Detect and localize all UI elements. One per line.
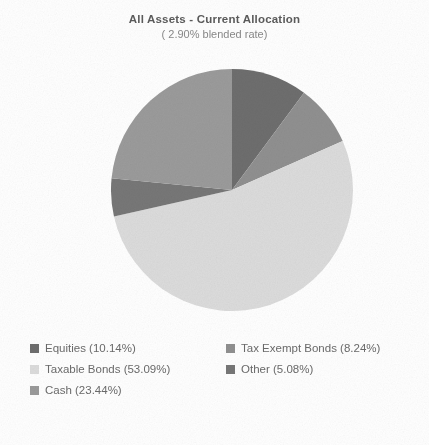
legend-item-label: Equities (10.14%)	[45, 342, 136, 355]
legend-row: Taxable Bonds (53.09%) Other (5.08%)	[30, 359, 422, 380]
chart-subtitle: ( 2.90% blended rate)	[0, 27, 429, 41]
legend-spacer	[226, 380, 422, 401]
legend-item-label: Tax Exempt Bonds (8.24%)	[241, 342, 380, 355]
pie-svg	[111, 66, 353, 314]
legend-item-label: Taxable Bonds (53.09%)	[45, 363, 170, 376]
legend-item-tax-exempt-bonds[interactable]: Tax Exempt Bonds (8.24%)	[226, 338, 422, 359]
legend-row: Cash (23.44%)	[30, 380, 422, 401]
legend-swatch-icon	[226, 344, 235, 353]
chart-title-block: All Assets - Current Allocation ( 2.90% …	[0, 12, 429, 41]
chart-legend: Equities (10.14%) Tax Exempt Bonds (8.24…	[30, 338, 422, 401]
legend-item-equities[interactable]: Equities (10.14%)	[30, 338, 226, 359]
legend-swatch-icon	[30, 344, 39, 353]
legend-item-taxable-bonds[interactable]: Taxable Bonds (53.09%)	[30, 359, 226, 380]
chart-title: All Assets - Current Allocation	[0, 12, 429, 26]
legend-swatch-icon	[226, 365, 235, 374]
pie-slice	[112, 69, 232, 190]
legend-item-label: Cash (23.44%)	[45, 384, 122, 397]
allocation-pie-chart: All Assets - Current Allocation ( 2.90% …	[0, 0, 429, 445]
legend-item-label: Other (5.08%)	[241, 363, 313, 376]
legend-swatch-icon	[30, 365, 39, 374]
legend-item-cash[interactable]: Cash (23.44%)	[30, 380, 226, 401]
pie-graphic	[111, 66, 353, 314]
legend-item-other[interactable]: Other (5.08%)	[226, 359, 422, 380]
pie-slice-group	[111, 69, 353, 311]
legend-swatch-icon	[30, 386, 39, 395]
legend-row: Equities (10.14%) Tax Exempt Bonds (8.24…	[30, 338, 422, 359]
